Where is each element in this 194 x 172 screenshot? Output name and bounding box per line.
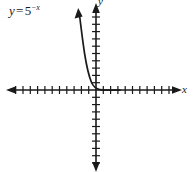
exponential-curve-group (75, 8, 120, 90)
x-axis-left-arrowhead (6, 86, 16, 94)
exponential-curve (80, 15, 121, 90)
exponential-graph-figure: y=5−x (0, 0, 194, 172)
y-axis-label: y (98, 0, 103, 7)
coordinate-plane (0, 0, 194, 172)
x-axis-label: x (182, 83, 187, 95)
x-axis-right-arrowhead (172, 86, 182, 94)
curve-arrowhead (75, 8, 83, 18)
